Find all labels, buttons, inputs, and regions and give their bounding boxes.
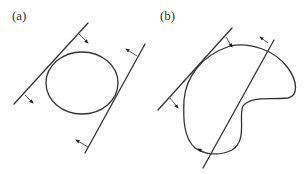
kidney-shape — [184, 45, 296, 154]
normal-arrow-icon — [226, 37, 232, 47]
tangent-support-line — [158, 28, 232, 110]
right-support-line — [85, 44, 145, 153]
normal-arrow-icon — [170, 98, 178, 108]
normal-arrow-icon — [198, 149, 208, 154]
normal-arrow-icon — [76, 140, 88, 147]
left-support-line — [14, 23, 88, 104]
panel-b: (b) — [158, 8, 296, 168]
normal-arrow-icon — [79, 34, 88, 43]
normal-arrow-icon — [126, 49, 137, 56]
panel-b-label: (b) — [160, 8, 175, 23]
panel-a: (a) — [12, 8, 145, 153]
normal-arrow-icon — [260, 37, 268, 43]
normal-arrow-icon — [25, 95, 33, 103]
panel-a-label: (a) — [12, 8, 26, 23]
secant-line — [203, 40, 274, 168]
circle-shape — [46, 52, 118, 114]
figure: (a) (b) — [0, 0, 307, 174]
